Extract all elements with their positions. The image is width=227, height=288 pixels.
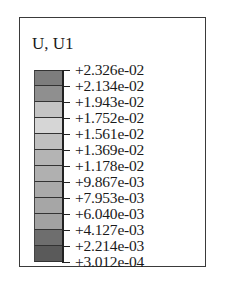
tick-label: +2.326e-02 xyxy=(75,63,144,77)
tick-mark xyxy=(62,198,70,200)
legend-title: U, U1 xyxy=(32,35,74,52)
color-swatch xyxy=(34,86,63,102)
tick-mark xyxy=(62,134,70,136)
color-swatch xyxy=(34,150,63,166)
tick-label: +6.040e-03 xyxy=(75,207,144,221)
color-swatch xyxy=(34,214,63,230)
tick-mark xyxy=(62,182,70,184)
tick-mark xyxy=(62,86,70,88)
tick-label: +1.178e-02 xyxy=(75,159,144,173)
color-swatch xyxy=(34,70,63,86)
tick-label: +2.134e-02 xyxy=(75,79,144,93)
color-swatch xyxy=(34,182,63,198)
tick-label: +9.867e-03 xyxy=(75,175,144,189)
color-swatch xyxy=(34,198,63,214)
tick-mark xyxy=(62,166,70,168)
contour-legend: U, U1 +2.326e-02+2.134e-02+1.943e-02+1.7… xyxy=(19,17,206,267)
tick-label: +7.953e-03 xyxy=(75,191,144,205)
tick-label: +1.369e-02 xyxy=(75,143,144,157)
tick-label: +1.561e-02 xyxy=(75,127,144,141)
color-swatch xyxy=(34,102,63,118)
tick-label: +2.214e-03 xyxy=(75,239,144,253)
color-swatch xyxy=(34,246,63,262)
color-swatch xyxy=(34,134,63,150)
tick-mark xyxy=(62,150,70,152)
tick-label: +1.752e-02 xyxy=(75,111,144,125)
tick-label: +3.012e-04 xyxy=(75,255,144,269)
color-bar xyxy=(34,70,63,262)
tick-mark xyxy=(62,214,70,216)
tick-mark xyxy=(62,70,70,72)
color-swatch xyxy=(34,166,63,182)
tick-mark xyxy=(62,230,70,232)
tick-label: +4.127e-03 xyxy=(75,223,144,237)
tick-mark xyxy=(62,262,70,264)
tick-label: +1.943e-02 xyxy=(75,95,144,109)
tick-mark xyxy=(62,102,70,104)
tick-mark xyxy=(62,246,70,248)
color-swatch xyxy=(34,118,63,134)
color-swatch xyxy=(34,230,63,246)
tick-mark xyxy=(62,118,70,120)
